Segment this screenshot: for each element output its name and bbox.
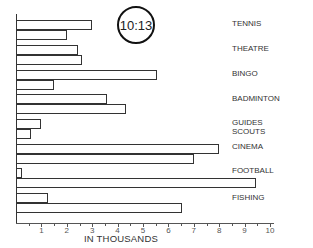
category-label-badminton: BADMINTON (232, 94, 280, 104)
bar-football-1 (16, 168, 22, 178)
x-minor-tick (80, 224, 81, 226)
x-tick-label: 7 (192, 226, 196, 235)
bar-fishing-1 (16, 193, 48, 203)
x-minor-tick (130, 224, 131, 226)
bar-guides-scouts-2 (16, 129, 31, 139)
bar-guides-scouts-1 (16, 119, 41, 129)
x-minor-tick (105, 224, 106, 226)
x-tick-label: 6 (166, 226, 170, 235)
x-minor-tick (257, 224, 258, 226)
clock-time: 10:13 (120, 18, 153, 33)
x-minor-tick (232, 224, 233, 226)
bar-theatre-2 (16, 55, 82, 65)
bar-bingo-2 (16, 80, 54, 90)
x-tick-label: 10 (266, 226, 275, 235)
x-minor-tick (207, 224, 208, 226)
x-tick-label: 9 (242, 226, 246, 235)
category-label-cinema: CINEMA (232, 142, 263, 152)
category-label-theatre: THEATRE (232, 44, 269, 54)
bar-badminton-1 (16, 94, 107, 104)
x-tick-label: 8 (217, 226, 221, 235)
bar-theatre-1 (16, 45, 78, 55)
horizontal-bar-chart: 10:13 12345678910 IN THOUSANDS TENNIS TH… (0, 0, 313, 248)
x-axis-label: IN THOUSANDS (84, 233, 158, 244)
category-label-football: FOOTBALL (232, 166, 274, 176)
x-minor-tick (54, 224, 55, 226)
x-minor-tick (181, 224, 182, 226)
category-label-fishing: FISHING (232, 193, 264, 203)
bar-football-2 (16, 178, 256, 188)
category-label-bingo: BINGO (232, 69, 258, 79)
bar-cinema-2 (16, 154, 194, 164)
x-tick-label: 2 (65, 226, 69, 235)
x-minor-tick (156, 224, 157, 226)
bar-cinema-1 (16, 144, 219, 154)
x-minor-tick (29, 224, 30, 226)
bar-badminton-2 (16, 104, 126, 114)
category-label-tennis: TENNIS (232, 19, 261, 29)
bar-tennis-2 (16, 30, 67, 40)
clock-badge: 10:13 (117, 6, 155, 44)
bar-tennis-1 (16, 20, 92, 30)
x-tick-label: 1 (39, 226, 43, 235)
category-label-scouts: SCOUTS (232, 127, 265, 137)
bar-fishing-2 (16, 203, 182, 213)
bar-bingo-1 (16, 70, 157, 80)
